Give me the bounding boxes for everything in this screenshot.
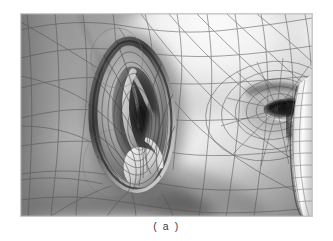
figure-caption: ( a ) bbox=[0, 219, 333, 233]
figure-panel: ( a ) bbox=[0, 0, 333, 241]
scan-grain-overlay bbox=[21, 14, 312, 216]
rendered-head-image bbox=[21, 14, 312, 216]
head-wireframe-render bbox=[21, 14, 312, 216]
